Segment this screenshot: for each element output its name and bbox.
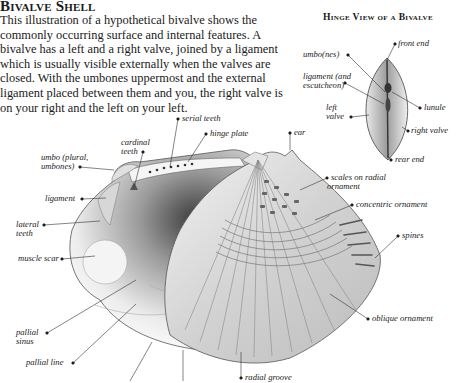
label-umbo-2: umbones)	[41, 162, 74, 172]
label-oblique-ornament: oblique ornament	[372, 314, 433, 324]
label-pallial-sinus-2: sinus	[16, 337, 34, 347]
label-lunule: lunule	[424, 103, 445, 113]
label-spines: spines	[402, 231, 423, 241]
label-umbo-nes: umbo(nes)	[303, 50, 339, 60]
inset-hinge-view	[366, 58, 408, 160]
label-left-valve-2: valve	[326, 112, 344, 122]
label-ear: ear	[294, 128, 305, 138]
label-front-end: front end	[398, 39, 429, 49]
label-cardinal-teeth-2: teeth	[121, 147, 138, 157]
label-serial-teeth: serial teeth	[182, 114, 220, 124]
label-hinge-plate: hinge plate	[210, 129, 248, 139]
label-lateral-teeth-2: teeth	[16, 229, 33, 239]
label-muscle-scar: muscle scar	[18, 254, 59, 264]
label-pallial-line: pallial line	[26, 358, 63, 368]
label-ligament: ligament	[45, 194, 75, 204]
label-right-valve: right valve	[411, 126, 448, 136]
label-ligament-escutcheon-2: escutcheon)	[303, 81, 344, 91]
label-concentric-ornament: concentric ornament	[356, 200, 427, 210]
label-radial-groove: radial groove	[245, 373, 292, 383]
label-scales-2: ornament	[327, 182, 360, 192]
label-rear-end: rear end	[395, 155, 424, 165]
